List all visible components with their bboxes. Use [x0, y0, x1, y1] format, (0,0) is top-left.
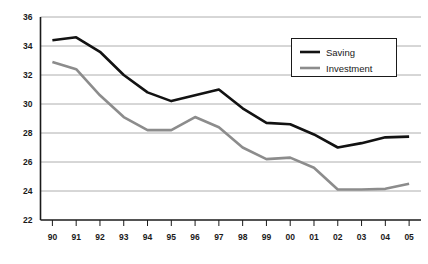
x-axis-tick-label: 97 [214, 232, 224, 242]
x-axis-tick-label: 91 [71, 232, 81, 242]
y-axis-tick-label: 22 [23, 215, 33, 225]
x-axis-tick-label: 04 [381, 232, 391, 242]
legend-label-saving: Saving [326, 47, 355, 58]
y-axis-tick-label: 30 [23, 99, 33, 109]
x-axis-tick-label: 03 [357, 232, 367, 242]
y-axis-tick-label: 26 [23, 157, 33, 167]
x-axis-tick-label: 00 [285, 232, 295, 242]
y-axis-tick-label: 36 [23, 12, 33, 22]
x-axis-tick-label: 02 [333, 232, 343, 242]
x-axis-tick-label: 05 [404, 232, 414, 242]
x-axis-tick-label: 93 [119, 232, 129, 242]
x-axis-tick-label: 99 [262, 232, 272, 242]
y-axis-tick-label: 32 [23, 70, 33, 80]
series-line-investment [52, 62, 409, 190]
x-axis-tick-label: 01 [309, 232, 319, 242]
x-axis-tick-label: 96 [190, 232, 200, 242]
y-axis-tick-label: 34 [23, 41, 33, 51]
y-axis-tick-label: 28 [23, 128, 33, 138]
y-axis-tick-label: 24 [23, 186, 33, 196]
x-axis-labels-group: 90919293949596979899000102030405 [48, 232, 414, 242]
x-axis-tick-label: 95 [167, 232, 177, 242]
x-axis-tick-label: 98 [238, 232, 248, 242]
legend: SavingInvestment [292, 39, 397, 77]
x-axis-ticks-group [52, 220, 409, 226]
y-axis-labels-group: 2224262830323436 [23, 12, 33, 225]
x-axis-tick-label: 90 [48, 232, 58, 242]
chart-canvas: 2224262830323436 90919293949596979899000… [0, 0, 428, 264]
line-chart: 2224262830323436 90919293949596979899000… [0, 0, 428, 264]
legend-label-investment: Investment [326, 63, 373, 74]
x-axis-tick-label: 92 [95, 232, 105, 242]
x-axis-tick-label: 94 [143, 232, 153, 242]
